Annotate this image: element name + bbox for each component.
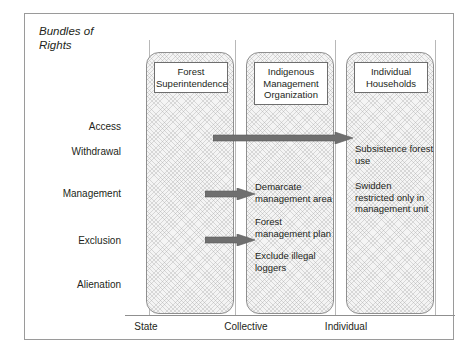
grid-line-state-right — [235, 40, 236, 316]
rights-row-label-management: Management — [21, 188, 121, 200]
rights-row-label-group: Access Withdrawal Management Exclusion A… — [25, 14, 121, 341]
tier-column-state: Forest Superintendence — [146, 52, 234, 314]
grid-line-right — [435, 40, 436, 316]
tiers-plot-area: Forest Superintendence Indigenous Manage… — [125, 40, 455, 316]
tier-header-state: Forest Superintendence — [154, 62, 228, 93]
rights-row-label-exclusion: Exclusion — [21, 235, 121, 247]
rights-row-label-alienation: Alienation — [21, 279, 121, 291]
tier-caption-individual: Individual — [286, 321, 406, 333]
tier-note-forest-management-plan: Forest management plan — [255, 216, 339, 239]
arrow-state-to-collective-exclusion — [205, 234, 255, 246]
figure-frame: Bundles of Rights Access Withdrawal Mana… — [24, 13, 454, 340]
tier-header-individual: Individual Households — [354, 62, 428, 93]
tier-note-demarcate-management-area: Demarcate management area — [255, 181, 339, 204]
rights-row-label-access: Access — [21, 121, 121, 133]
arrow-state-to-individual — [213, 132, 353, 144]
tier-column-collective: Indigenous Management Organization Demar… — [246, 52, 334, 314]
rights-row-label-withdrawal: Withdrawal — [21, 146, 121, 158]
axis-line — [125, 315, 455, 316]
tier-column-individual: Individual Households Subsistence forest… — [346, 52, 434, 314]
tier-note-swidden-restricted: Swidden restricted only in management un… — [355, 180, 439, 215]
grid-line-collective-right — [335, 40, 336, 316]
tier-header-collective: Indigenous Management Organization — [254, 62, 328, 105]
tier-note-subsistence-forest-use: Subsistence forest use — [355, 143, 439, 166]
tier-note-exclude-illegal-loggers: Exclude illegal loggers — [255, 250, 339, 273]
arrow-state-to-collective-management — [205, 188, 255, 200]
